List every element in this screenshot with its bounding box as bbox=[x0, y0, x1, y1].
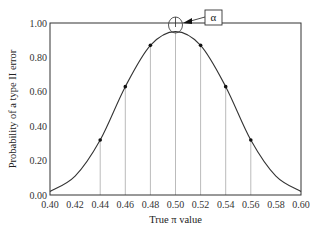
x-tick-label: 0.60 bbox=[292, 199, 310, 210]
data-point-marker bbox=[98, 138, 102, 142]
x-tick-label: 0.48 bbox=[142, 199, 160, 210]
data-point-marker bbox=[199, 44, 203, 48]
x-tick-label: 0.46 bbox=[117, 199, 135, 210]
alpha-arrowhead-icon bbox=[183, 18, 192, 24]
data-point-marker bbox=[249, 138, 253, 142]
y-axis-ticks: 0.000.200.400.600.801.00 bbox=[30, 18, 48, 201]
alpha-label: α bbox=[211, 11, 217, 23]
y-tick-label: 1.00 bbox=[30, 18, 48, 29]
y-axis-label: Probability of a type II error bbox=[7, 49, 18, 168]
y-tick-label: 0.80 bbox=[30, 52, 48, 63]
x-tick-label: 0.52 bbox=[192, 199, 210, 210]
y-tick-label: 0.20 bbox=[30, 155, 48, 166]
x-tick-label: 0.40 bbox=[41, 199, 59, 210]
data-point-marker bbox=[224, 85, 228, 89]
data-point-marker bbox=[149, 44, 153, 48]
x-tick-label: 0.50 bbox=[167, 199, 185, 210]
drop-lines bbox=[100, 17, 251, 195]
type-ii-error-chart: 0.000.200.400.600.801.00 0.400.420.440.4… bbox=[0, 0, 320, 233]
x-tick-label: 0.42 bbox=[66, 199, 84, 210]
data-point-marker bbox=[124, 85, 128, 89]
y-tick-label: 0.60 bbox=[30, 86, 48, 97]
x-tick-label: 0.56 bbox=[242, 199, 260, 210]
x-axis-label: True π value bbox=[149, 214, 202, 225]
x-tick-label: 0.54 bbox=[217, 199, 235, 210]
x-tick-label: 0.58 bbox=[267, 199, 285, 210]
x-axis-ticks: 0.400.420.440.460.480.500.520.540.560.58… bbox=[41, 199, 310, 210]
x-tick-label: 0.44 bbox=[91, 199, 109, 210]
y-tick-label: 0.40 bbox=[30, 121, 48, 132]
